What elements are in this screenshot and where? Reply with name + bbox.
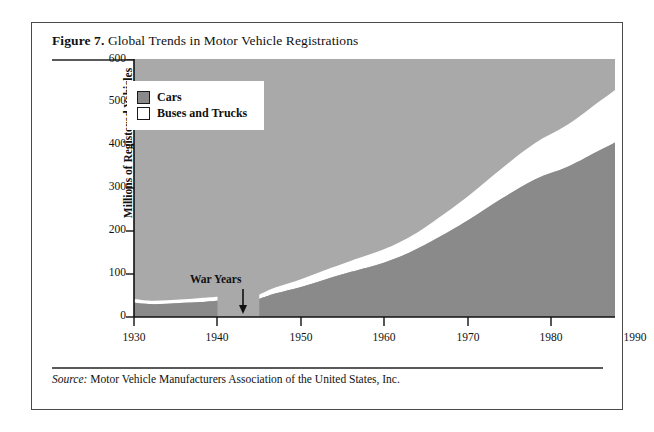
- down-arrow-icon: [236, 289, 250, 315]
- legend-label-buses-and-trucks: Buses and Trucks: [157, 106, 247, 121]
- figure-caption: Figure 7. Global Trends in Motor Vehicle…: [52, 33, 358, 49]
- figure-frame: Figure 7. Global Trends in Motor Vehicle…: [31, 22, 623, 410]
- chart-legend: Cars Buses and Trucks: [127, 81, 264, 130]
- legend-item-cars: Cars: [137, 90, 247, 105]
- figure-title: Global Trends in Motor Vehicle Registrat…: [104, 33, 358, 48]
- x-tick-marks: [134, 317, 615, 326]
- legend-item-buses-and-trucks: Buses and Trucks: [137, 106, 247, 121]
- legend-swatch-buses-and-trucks: [137, 107, 150, 120]
- war-years-annotation-label: War Years: [190, 273, 241, 285]
- legend-label-cars: Cars: [157, 90, 182, 105]
- x-tick-1990: 1990: [615, 331, 654, 343]
- source-divider: [52, 367, 603, 369]
- figure-number: Figure 7.: [52, 33, 104, 48]
- source-text: Motor Vehicle Manufacturers Association …: [87, 373, 399, 385]
- source-label: Source:: [52, 373, 87, 385]
- chart-area: Millions of Registered Vehicles 600 500 …: [70, 59, 615, 359]
- figure-source: Source: Motor Vehicle Manufacturers Asso…: [52, 373, 400, 385]
- legend-swatch-cars: [137, 91, 150, 104]
